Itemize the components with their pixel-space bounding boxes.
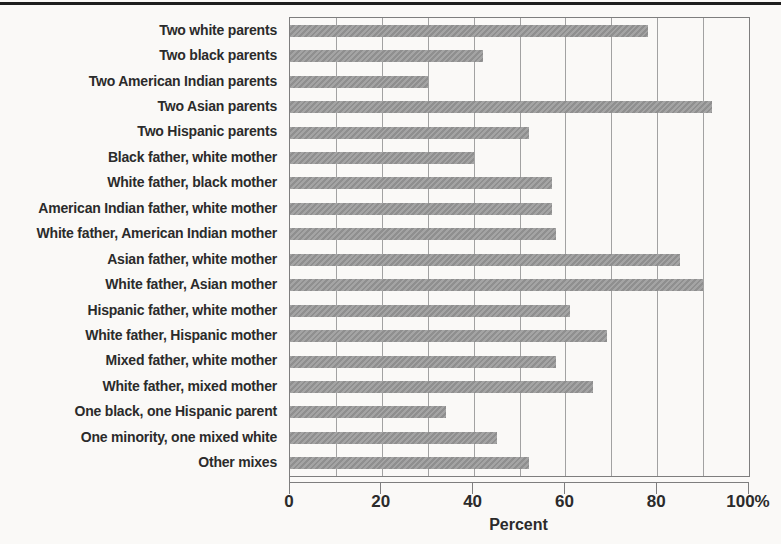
category-label: White father, black mother <box>0 170 284 195</box>
plot-area <box>289 17 750 477</box>
bar <box>290 457 529 469</box>
category-label: Asian father, white mother <box>0 246 284 271</box>
figure-page: Two white parentsTwo black parentsTwo Am… <box>0 0 781 544</box>
gridline <box>703 18 704 476</box>
category-label: Two American Indian parents <box>0 68 284 93</box>
bar <box>290 50 483 62</box>
bar <box>290 305 570 317</box>
bar <box>290 25 648 37</box>
x-axis-tick-label: 80 <box>624 492 688 512</box>
top-border-rule <box>0 2 781 5</box>
category-label: Two Hispanic parents <box>0 119 284 144</box>
gridline <box>657 18 658 476</box>
gridline <box>474 18 475 476</box>
category-label: White father, American Indian mother <box>0 221 284 246</box>
bar <box>290 356 556 368</box>
x-axis-line <box>289 482 749 483</box>
bar <box>290 101 712 113</box>
category-labels: Two white parentsTwo black parentsTwo Am… <box>0 17 284 475</box>
bar <box>290 279 703 291</box>
category-label: Mixed father, white mother <box>0 348 284 373</box>
gridline <box>565 18 566 476</box>
bar <box>290 381 593 393</box>
bar <box>290 152 474 164</box>
gridline <box>520 18 521 476</box>
x-axis-tick-label: 100% <box>716 492 780 512</box>
bar <box>290 254 680 266</box>
category-label: White father, Hispanic mother <box>0 322 284 347</box>
category-label: Two white parents <box>0 17 284 42</box>
gridline <box>611 18 612 476</box>
category-label: Two black parents <box>0 42 284 67</box>
category-label: One minority, one mixed white <box>0 424 284 449</box>
bar <box>290 76 428 88</box>
x-axis-tick-label: 20 <box>349 492 413 512</box>
category-label: White father, Asian mother <box>0 271 284 296</box>
category-label: One black, one Hispanic parent <box>0 399 284 424</box>
bar <box>290 330 607 342</box>
bar <box>290 127 529 139</box>
x-axis-tick-label: 0 <box>257 492 321 512</box>
category-label: White father, mixed mother <box>0 373 284 398</box>
category-label: Hispanic father, white mother <box>0 297 284 322</box>
bar <box>290 406 446 418</box>
category-label: Two Asian parents <box>0 93 284 118</box>
bar <box>290 228 556 240</box>
x-axis-tick-label: 60 <box>532 492 596 512</box>
category-label: American Indian father, white mother <box>0 195 284 220</box>
bar <box>290 203 552 215</box>
bar <box>290 432 497 444</box>
category-label: Black father, white mother <box>0 144 284 169</box>
category-label: Other mixes <box>0 450 284 475</box>
bar <box>290 177 552 189</box>
x-axis-tick-label: 40 <box>441 492 505 512</box>
x-axis-title: Percent <box>289 516 748 534</box>
